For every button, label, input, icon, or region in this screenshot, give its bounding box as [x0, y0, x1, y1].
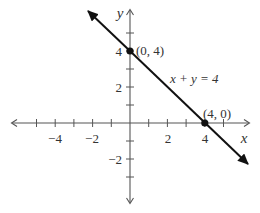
equation-label: x + y = 4 — [169, 71, 219, 86]
point-label-0-4: (0, 4) — [136, 43, 164, 58]
coordinate-plane: −4 −2 2 4 4 2 −2 y x (0, 4) (4, 0) x + y… — [0, 0, 260, 213]
x-tick-label-4: 4 — [202, 131, 209, 146]
point-0-4 — [126, 47, 133, 54]
point-label-4-0: (4, 0) — [203, 106, 231, 121]
y-tick-label-neg2: −2 — [108, 152, 122, 167]
x-axis-label: x — [240, 130, 248, 146]
x-tick-label-neg2: −2 — [85, 131, 99, 146]
x-tick-label-neg4: −4 — [48, 131, 62, 146]
y-tick-label-2: 2 — [116, 80, 123, 95]
y-axis-label: y — [115, 5, 124, 21]
y-tick-label-4: 4 — [116, 44, 123, 59]
x-tick-label-2: 2 — [165, 131, 172, 146]
y-axis — [126, 10, 134, 203]
